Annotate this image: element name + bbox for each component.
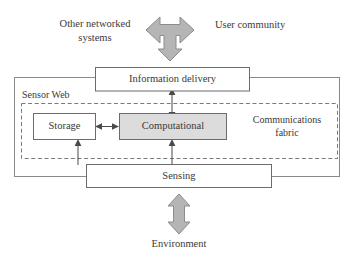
environment-block-arrow [168, 194, 190, 234]
label-other-networked-line2: systems [78, 32, 111, 43]
connector-sensing-computational [169, 139, 176, 165]
label-environment: Environment [152, 238, 207, 249]
three-way-block-arrow [146, 17, 194, 61]
connector-sensing-storage [75, 139, 82, 165]
label-communications-fabric-line1: Communications [253, 114, 321, 125]
label-computational: Computational [142, 120, 204, 131]
diagram-canvas: Other networked systems User community I… [0, 0, 355, 256]
sensor-web-diagram: Other networked systems User community I… [0, 0, 355, 256]
label-sensor-web: Sensor Web [22, 89, 70, 100]
label-storage: Storage [48, 120, 80, 131]
label-information-delivery: Information delivery [129, 73, 217, 84]
label-communications-fabric-line2: fabric [275, 127, 299, 138]
connector-storage-computational [95, 123, 119, 129]
label-sensing: Sensing [162, 170, 196, 181]
label-other-networked-line1: Other networked [60, 18, 132, 29]
label-user-community: User community [215, 19, 286, 30]
